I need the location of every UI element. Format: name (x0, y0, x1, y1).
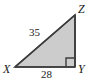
geometry-figure: X Y Z 35 28 (0, 0, 97, 82)
side-length-label-base: 28 (41, 69, 52, 80)
vertex-label-y: Y (78, 63, 85, 75)
vertex-label-x: X (3, 63, 10, 75)
vertex-label-z: Z (78, 3, 85, 15)
side-length-label-hypotenuse: 35 (29, 27, 40, 38)
